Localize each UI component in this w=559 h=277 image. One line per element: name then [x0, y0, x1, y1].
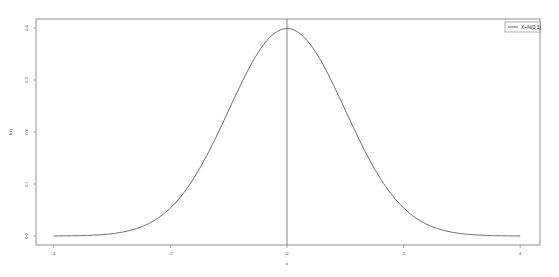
y-tick-label: 0.3	[24, 76, 29, 82]
y-tick-label: 0.1	[24, 180, 29, 186]
x-tick-label: -2	[169, 251, 173, 256]
legend: X~N(0,1)	[505, 22, 541, 32]
y-axis-label: f(x)	[8, 128, 13, 134]
plot-frame	[36, 19, 540, 245]
y-tick-label: 0.2	[24, 128, 29, 134]
legend-entry-label: X~N(0,1)	[521, 24, 541, 30]
chart: -4-2024 0.00.10.20.30.4 x f(x) X~N(0,1)	[0, 0, 559, 277]
y-tick-label: 0.0	[24, 232, 29, 238]
y-axis: 0.00.10.20.30.4	[24, 24, 36, 238]
x-tick-label: -4	[52, 251, 56, 256]
x-tick-label: 4	[519, 251, 522, 256]
y-tick-label: 0.4	[24, 24, 29, 30]
x-axis-label: x	[286, 261, 288, 266]
x-tick-label: 2	[402, 251, 405, 256]
x-axis: -4-2024	[52, 245, 522, 256]
x-tick-label: 0	[286, 251, 289, 256]
